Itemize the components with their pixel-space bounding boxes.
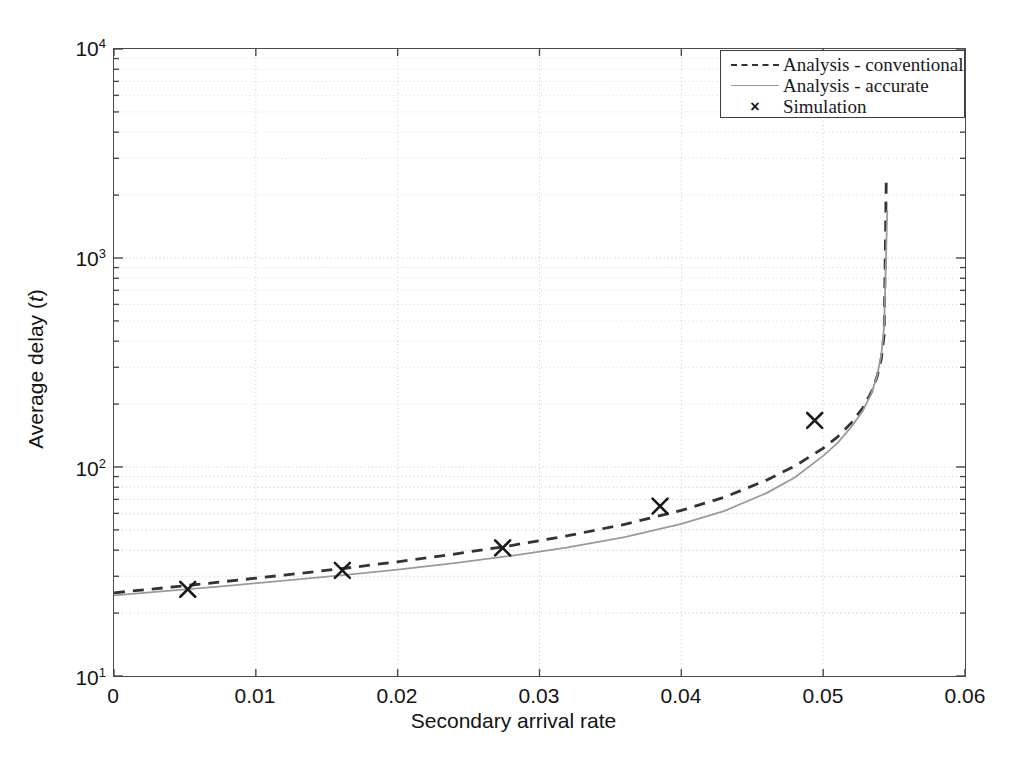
y-axis-label: Average delay (t)	[24, 119, 48, 619]
ytick-label-10000: 104	[36, 36, 106, 61]
data-series-layer	[114, 179, 887, 597]
legend-label-simulation: Simulation	[783, 97, 866, 117]
legend-label-analysis-accurate: Analysis - accurate	[783, 76, 929, 96]
xtick-label-002: 0.02	[352, 684, 442, 708]
y-axis-label-variable: t	[24, 296, 47, 302]
xtick-label-006: 0.06	[920, 684, 1010, 708]
xtick-label-001: 0.01	[210, 684, 300, 708]
legend-item-analysis-conventional: Analysis - conventional	[727, 54, 958, 75]
grid-layer	[114, 49, 965, 676]
legend-label-analysis-conventional: Analysis - conventional	[783, 55, 963, 75]
figure-root: 104 103 102 101 0 0.01 0.02 0.03 0.04 0.…	[0, 0, 1027, 765]
plot-canvas	[114, 49, 965, 676]
cross-marker-key: ×	[727, 96, 783, 117]
dashed-line-key	[727, 54, 783, 75]
tick-marks-layer	[114, 49, 965, 676]
legend-item-analysis-accurate: Analysis - accurate	[727, 75, 958, 96]
simulation-marker	[807, 413, 822, 428]
cross-icon: ×	[750, 98, 759, 116]
legend-item-simulation: × Simulation	[727, 96, 958, 117]
xtick-label-003: 0.03	[494, 684, 584, 708]
xtick-label-004: 0.04	[636, 684, 726, 708]
x-axis-label: Secondary arrival rate	[0, 709, 1027, 733]
xtick-label-0: 0	[68, 684, 158, 708]
y-axis-label-suffix: )	[24, 289, 47, 296]
plot-area	[113, 48, 966, 677]
simulation-marker	[653, 499, 668, 514]
series-line-analysis-conventional	[114, 179, 886, 593]
legend-box: Analysis - conventional Analysis - accur…	[720, 50, 965, 118]
y-axis-label-prefix: Average delay (	[24, 302, 47, 449]
solid-line-key	[727, 75, 783, 96]
xtick-label-005: 0.05	[778, 684, 868, 708]
